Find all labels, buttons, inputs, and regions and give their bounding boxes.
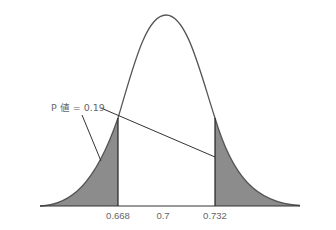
annotation-pointer-left (82, 115, 101, 161)
tick-label-0732: 0.732 (203, 210, 227, 221)
tick-label-07: 0.7 (156, 210, 169, 221)
p-value-label: P 値 = 0.19 (51, 102, 105, 113)
tick-label-0668: 0.668 (106, 210, 130, 221)
normal-distribution-chart: P 値 = 0.19 0.668 0.7 0.732 (0, 0, 336, 230)
right-tail-area (215, 118, 300, 206)
left-tail-area (40, 118, 118, 206)
